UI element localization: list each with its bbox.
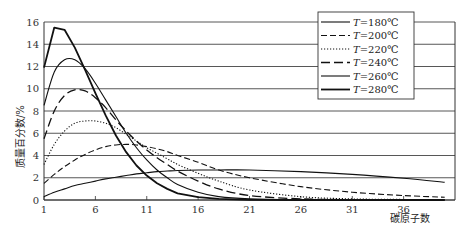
y-tick-label: 16: [26, 17, 39, 28]
legend-item-label: T=220℃: [353, 44, 398, 55]
y-tick-label: 6: [33, 128, 39, 139]
y-tick-label: 2: [33, 172, 39, 183]
x-tick-label: 16: [192, 204, 205, 215]
x-tick-label: 26: [295, 204, 308, 215]
series-line-180: [44, 170, 445, 197]
y-tick-label: 8: [33, 106, 39, 117]
x-axis-label: 碳原子数: [390, 212, 430, 224]
y-axis-ticks: 0246810121416: [26, 17, 39, 206]
y-tick-label: 12: [26, 61, 39, 72]
legend-item-label: T=200℃: [353, 30, 398, 41]
y-tick-label: 14: [26, 39, 39, 50]
legend-item-label: T=260℃: [353, 71, 398, 82]
x-tick-label: 11: [140, 204, 153, 215]
y-axis-label: 质量百分数/%: [14, 105, 26, 168]
y-tick-label: 10: [26, 83, 39, 94]
y-tick-label: 4: [33, 150, 39, 161]
legend-item-label: T=180℃: [353, 17, 398, 28]
y-tick-label: 0: [33, 195, 39, 206]
x-tick-label: 31: [346, 204, 359, 215]
series-line-220: [44, 121, 445, 200]
line-chart: 0246810121416 16111621263136 质量百分数/% 碳原子…: [0, 0, 465, 237]
series-line-200: [44, 144, 445, 197]
legend: T=180℃T=200℃T=220℃T=240℃T=260℃T=280℃: [318, 12, 414, 99]
legend-item-label: T=280℃: [353, 84, 398, 95]
x-tick-label: 1: [41, 204, 47, 215]
x-tick-label: 6: [92, 204, 98, 215]
legend-item-label: T=240℃: [353, 57, 398, 68]
series-line-240: [44, 90, 445, 200]
x-tick-label: 21: [243, 204, 256, 215]
